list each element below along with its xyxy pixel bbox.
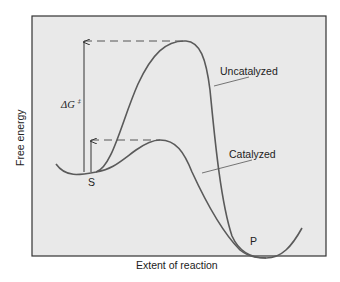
- uncatalyzed-label: Uncatalyzed: [220, 65, 278, 77]
- product-label: P: [250, 235, 257, 247]
- delta-g-superscript: ‡: [77, 97, 81, 105]
- delta-g-symbol: ΔG: [60, 99, 75, 110]
- energy-diagram: Uncatalyzed Catalyzed ΔG ‡ S P Extent of…: [0, 0, 340, 282]
- y-axis-label: Free energy: [14, 109, 26, 166]
- x-axis-label: Extent of reaction: [136, 259, 218, 271]
- catalyzed-label: Catalyzed: [229, 148, 276, 160]
- plot-area: [32, 16, 326, 256]
- substrate-label: S: [88, 176, 95, 188]
